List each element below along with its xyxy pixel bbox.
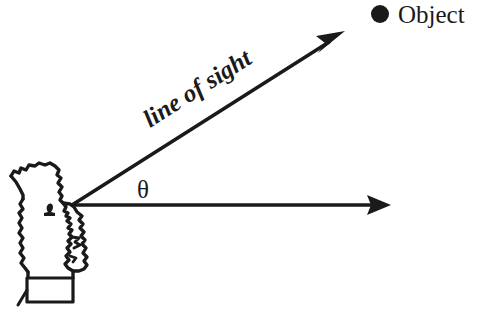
diagram-svg: Object θ line of sight <box>0 0 489 313</box>
observer-head-top-icon <box>11 176 23 199</box>
observer-hair-icon <box>11 163 63 203</box>
observer-neck-back-icon <box>19 199 28 272</box>
object-dot-icon <box>371 5 389 23</box>
observer-mouth-icon <box>72 237 80 248</box>
sight-arrow-head-icon <box>316 31 345 53</box>
diagram-canvas: Object θ line of sight <box>0 0 489 313</box>
observer-eye-icon <box>44 203 55 216</box>
observer-collar-icon <box>27 278 73 302</box>
line-of-sight-label: line of sight <box>138 43 257 132</box>
sight-arrow-shaft-icon <box>72 42 329 205</box>
angle-label: θ <box>137 176 149 203</box>
object-label: Object <box>398 1 465 28</box>
observer-chin-icon <box>70 256 76 262</box>
